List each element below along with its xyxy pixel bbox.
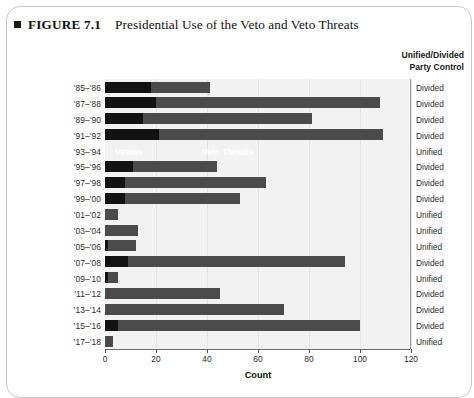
annotation-veto-threats: Veto Threats xyxy=(202,147,254,157)
annotation-vetoes: Vetoes xyxy=(115,147,143,157)
y-axis-label: '11–'12 xyxy=(74,289,101,299)
bar-row xyxy=(105,111,410,127)
y-axis-label: '97–'98 xyxy=(74,178,101,188)
bar-segment-vetoes xyxy=(105,129,159,140)
bar-row xyxy=(105,174,410,190)
party-control-value: Unified xyxy=(416,147,442,157)
bar-row xyxy=(105,79,410,95)
bar-row xyxy=(105,127,410,143)
bar-row xyxy=(105,206,410,222)
y-axis-label: '99–'00 xyxy=(74,194,101,204)
x-tick-label: 20 xyxy=(151,354,160,364)
x-tick-label: 40 xyxy=(202,354,211,364)
x-tick-label: 0 xyxy=(103,354,108,364)
x-tick-mark xyxy=(156,349,157,353)
y-axis-label: '07–'08 xyxy=(74,258,101,268)
party-control-value: Divided xyxy=(416,83,444,93)
bar-row xyxy=(105,158,410,174)
bar-row xyxy=(105,222,410,238)
party-control-value: Divided xyxy=(416,131,444,141)
y-axis-label: '95–'96 xyxy=(74,162,101,172)
bar-segment-vetoes xyxy=(105,256,128,267)
party-control-value: Unified xyxy=(416,210,442,220)
x-axis-ticks: 020406080100120 xyxy=(105,349,411,367)
party-control-value: Unified xyxy=(416,226,442,236)
bar-row xyxy=(105,143,410,159)
bar-segment-vetoes xyxy=(105,193,125,204)
x-tick-mark xyxy=(258,349,259,353)
bar-segment-vetoes xyxy=(105,240,108,251)
x-tick-label: 80 xyxy=(304,354,313,364)
x-tick-mark xyxy=(207,349,208,353)
bar-row xyxy=(105,301,410,317)
y-axis-labels: '85–'86'87–'88'89–'90'91–'92'93–'94'95–'… xyxy=(48,79,101,349)
party-control-value: Divided xyxy=(416,178,444,188)
bar-row xyxy=(105,95,410,111)
bar-row xyxy=(105,254,410,270)
bar-segment-vetoes xyxy=(105,177,125,188)
party-control-value: Divided xyxy=(416,305,444,315)
party-control-value: Divided xyxy=(416,258,444,268)
x-tick-label: 100 xyxy=(353,354,367,364)
y-axis-label: '05–'06 xyxy=(74,242,101,252)
y-axis-label: '03–'04 xyxy=(74,226,101,236)
y-axis-label: '91–'92 xyxy=(74,131,101,141)
bar-segment-vetoes xyxy=(105,320,118,331)
party-control-labels: DividedDividedDividedDividedUnifiedDivid… xyxy=(416,79,472,349)
y-axis-label: '93–'94 xyxy=(74,147,101,157)
y-axis-label: '15–'16 xyxy=(74,321,101,331)
bar-segment-veto-threats xyxy=(105,256,345,267)
y-axis-label: '85–'86 xyxy=(74,83,101,93)
party-control-value: Unified xyxy=(416,337,442,347)
y-axis-label: '17–'18 xyxy=(74,337,101,347)
party-control-value: Divided xyxy=(416,99,444,109)
bar-row xyxy=(105,190,410,206)
x-axis-title: Count xyxy=(105,370,411,380)
plot-area: VetoesVeto Threats xyxy=(105,79,411,349)
bar-segment-vetoes xyxy=(105,97,156,108)
bar-segment-veto-threats xyxy=(105,336,113,347)
bar-segment-vetoes xyxy=(105,113,143,124)
party-control-value: Unified xyxy=(416,242,442,252)
bar-row xyxy=(105,317,410,333)
bar-segment-veto-threats xyxy=(105,177,266,188)
party-control-value: Divided xyxy=(416,194,444,204)
x-tick-mark xyxy=(411,349,412,353)
x-tick-mark xyxy=(105,349,106,353)
y-axis-label: '01–'02 xyxy=(74,210,101,220)
bar-segment-veto-threats xyxy=(105,225,138,236)
x-tick-label: 60 xyxy=(253,354,262,364)
bar-segment-veto-threats xyxy=(105,240,136,251)
x-tick-label: 120 xyxy=(404,354,418,364)
bar-segment-vetoes xyxy=(105,161,133,172)
gridline xyxy=(411,79,412,349)
party-control-value: Divided xyxy=(416,162,444,172)
y-axis-label: '89–'90 xyxy=(74,115,101,125)
bar-rows xyxy=(105,79,410,349)
x-tick-mark xyxy=(309,349,310,353)
party-control-value: Divided xyxy=(416,321,444,331)
bar-segment-veto-threats xyxy=(105,320,360,331)
party-control-value: Divided xyxy=(416,115,444,125)
party-control-value: Divided xyxy=(416,289,444,299)
party-control-value: Unified xyxy=(416,274,442,284)
x-tick-mark xyxy=(360,349,361,353)
bar-segment-vetoes xyxy=(105,272,108,283)
y-axis-label: '13–'14 xyxy=(74,305,101,315)
bar-row xyxy=(105,238,410,254)
bar-row xyxy=(105,285,410,301)
bar-row xyxy=(105,270,410,286)
bar-segment-veto-threats xyxy=(105,304,284,315)
y-axis-label: '87–'88 xyxy=(74,99,101,109)
bar-segment-veto-threats xyxy=(105,209,118,220)
bar-row xyxy=(105,333,410,349)
bar-segment-veto-threats xyxy=(105,288,220,299)
y-axis-label: '09–'10 xyxy=(74,274,101,284)
bar-segment-vetoes xyxy=(105,82,151,93)
